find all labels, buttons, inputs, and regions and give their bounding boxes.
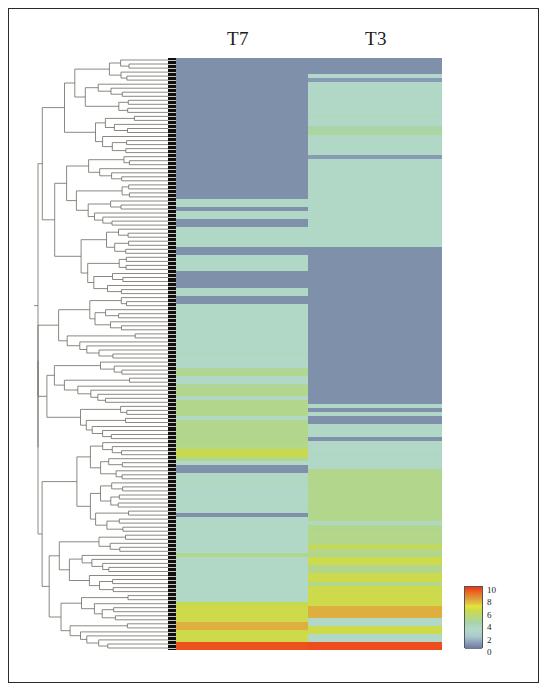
- dendrogram-leaf-tick: [168, 205, 176, 206]
- dendrogram-leaf-tick: [168, 418, 176, 419]
- dendrogram-leaf-tick: [168, 382, 176, 383]
- dendrogram-leaf-band: [168, 58, 176, 650]
- dendrogram-leaf-tick: [168, 394, 176, 395]
- dendrogram-leaf-tick: [168, 499, 176, 500]
- dendrogram-leaf-tick: [168, 310, 176, 311]
- dendrogram-leaf-tick: [168, 290, 176, 291]
- dendrogram-leaf-tick: [168, 612, 176, 613]
- dendrogram-leaf-tick: [168, 193, 176, 194]
- dendrogram-leaf-tick: [168, 567, 176, 568]
- dendrogram-leaf-tick: [168, 197, 176, 198]
- dendrogram-leaf-tick: [168, 108, 176, 109]
- dendrogram-leaf-tick: [168, 414, 176, 415]
- dendrogram-leaf-tick: [168, 366, 176, 367]
- dendrogram-leaf-tick: [168, 253, 176, 254]
- dendrogram-leaf-tick: [168, 269, 176, 270]
- color-legend-labels: 1086420: [487, 580, 509, 654]
- dendrogram-leaf-tick: [168, 177, 176, 178]
- dendrogram-leaf-tick: [168, 302, 176, 303]
- dendrogram-leaf-tick: [168, 487, 176, 488]
- dendrogram-leaf-tick: [168, 370, 176, 371]
- dendrogram-leaf-tick: [168, 447, 176, 448]
- dendrogram-leaf-tick: [168, 145, 176, 146]
- dendrogram-leaf-tick: [168, 592, 176, 593]
- dendrogram-leaf-tick: [168, 157, 176, 158]
- dendrogram-leaf-tick: [168, 96, 176, 97]
- dendrogram-leaf-tick: [168, 491, 176, 492]
- dendrogram-leaf-tick: [168, 173, 176, 174]
- dendrogram-leaf-tick: [168, 261, 176, 262]
- dendrogram-leaf-tick: [168, 362, 176, 363]
- dendrogram-leaf-tick: [168, 169, 176, 170]
- dendrogram-leaf-tick: [168, 133, 176, 134]
- dendrogram-leaf-tick: [168, 616, 176, 617]
- dendrogram-leaf-tick: [168, 563, 176, 564]
- dendrogram-leaf-tick: [168, 120, 176, 121]
- dendrogram-leaf-tick: [168, 209, 176, 210]
- dendrogram-leaf-tick: [168, 185, 176, 186]
- dendrogram-leaf-tick: [168, 539, 176, 540]
- dendrogram-leaf-tick: [168, 378, 176, 379]
- heatmap-grid: [176, 58, 442, 650]
- dendrogram-leaf-tick: [168, 189, 176, 190]
- dendrogram-leaf-tick: [168, 116, 176, 117]
- dendrogram-leaf-tick: [168, 68, 176, 69]
- dendrogram-leaf-tick: [168, 527, 176, 528]
- dendrogram-leaf-tick: [168, 245, 176, 246]
- dendrogram-leaf-tick: [168, 515, 176, 516]
- dendrogram-leaf-tick: [168, 439, 176, 440]
- dendrogram-leaf-tick: [168, 475, 176, 476]
- dendrogram-leaf-tick: [168, 644, 176, 645]
- color-legend-bar: [464, 586, 483, 648]
- dendrogram-leaf-tick: [168, 624, 176, 625]
- dendrogram-leaf-tick: [168, 314, 176, 315]
- color-legend-tick: 0: [487, 648, 492, 657]
- dendrogram-leaf-tick: [168, 640, 176, 641]
- dendrogram-leaf-tick: [168, 330, 176, 331]
- dendrogram-leaf-tick: [168, 580, 176, 581]
- dendrogram-leaf-tick: [168, 551, 176, 552]
- dendrogram-leaf-tick: [168, 354, 176, 355]
- dendrogram-leaf-tick: [168, 225, 176, 226]
- column-header-t3: T3: [338, 28, 414, 50]
- dendrogram-leaf-tick: [168, 648, 176, 649]
- dendrogram-leaf-tick: [168, 318, 176, 319]
- dendrogram-leaf-tick: [168, 201, 176, 202]
- dendrogram-leaf-tick: [168, 265, 176, 266]
- dendrogram-leaf-tick: [168, 322, 176, 323]
- dendrogram-leaf-tick: [168, 426, 176, 427]
- dendrogram-leaf-tick: [168, 398, 176, 399]
- dendrogram-leaf-tick: [168, 435, 176, 436]
- dendrogram-leaf-tick: [168, 229, 176, 230]
- dendrogram-leaf-tick: [168, 431, 176, 432]
- heatmap-column-t7: [176, 58, 308, 650]
- dendrogram-leaf-tick: [168, 374, 176, 375]
- dendrogram-leaf-tick: [168, 503, 176, 504]
- dendrogram-leaf-tick: [168, 350, 176, 351]
- dendrogram: [32, 58, 176, 650]
- dendrogram-leaf-tick: [168, 531, 176, 532]
- dendrogram-leaf-tick: [168, 406, 176, 407]
- dendrogram-leaf-tick: [168, 76, 176, 77]
- dendrogram-leaf-tick: [168, 141, 176, 142]
- dendrogram-leaf-tick: [168, 636, 176, 637]
- dendrogram-leaf-tick: [168, 576, 176, 577]
- dendrogram-leaf-tick: [168, 511, 176, 512]
- dendrogram-leaf-tick: [168, 213, 176, 214]
- dendrogram-leaf-tick: [168, 88, 176, 89]
- dendrogram-leaf-tick: [168, 128, 176, 129]
- dendrogram-tree: [32, 58, 176, 650]
- dendrogram-leaf-tick: [168, 451, 176, 452]
- dendrogram-leaf-tick: [168, 257, 176, 258]
- column-header-t7: T7: [200, 28, 276, 50]
- color-legend-tick: 6: [487, 611, 492, 620]
- dendrogram-leaf-tick: [168, 334, 176, 335]
- dendrogram-leaf-tick: [168, 100, 176, 101]
- dendrogram-leaf-tick: [168, 584, 176, 585]
- dendrogram-leaf-tick: [168, 600, 176, 601]
- dendrogram-leaf-tick: [168, 471, 176, 472]
- dendrogram-leaf-tick: [168, 523, 176, 524]
- heatmap-cell: [308, 646, 442, 650]
- color-legend-segment: [465, 648, 482, 649]
- dendrogram-leaf-tick: [168, 459, 176, 460]
